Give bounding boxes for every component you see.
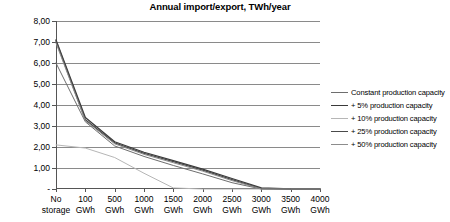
legend-item[interactable]: Constant production capacity — [331, 86, 449, 99]
legend-item-label: Constant production capacity — [351, 88, 445, 97]
y-axis-label: 1,00 — [10, 163, 50, 173]
y-axis-label: 2,00 — [10, 142, 50, 152]
plot-area: 8,007,006,005,004,003,002,001,00- No sto… — [56, 21, 320, 189]
legend-line-icon — [331, 140, 348, 149]
x-axis-tick — [173, 189, 174, 192]
legend-item-label: + 50% production capacity — [351, 140, 437, 149]
x-axis-tick — [144, 189, 145, 192]
series-line — [56, 43, 320, 189]
y-axis-label: 7,00 — [10, 37, 50, 47]
legend-line-icon — [331, 114, 348, 123]
x-axis-tick — [56, 189, 57, 192]
legend-line-icon — [331, 127, 348, 136]
legend-item[interactable]: + 5% production capacity — [331, 99, 449, 112]
x-axis-tick — [115, 189, 116, 192]
series-lines — [56, 21, 320, 189]
legend-item[interactable]: + 50% production capacity — [331, 138, 449, 151]
legend-item[interactable]: + 25% production capacity — [331, 125, 449, 138]
legend-item-label: + 25% production capacity — [351, 127, 437, 136]
y-axis-label: 5,00 — [10, 79, 50, 89]
y-axis-label: - — [10, 184, 50, 194]
legend-item-label: + 10% production capacity — [351, 114, 437, 123]
legend-item[interactable]: + 10% production capacity — [331, 112, 449, 125]
x-axis-label: 4000 GWh — [297, 194, 343, 215]
y-axis-label: 3,00 — [10, 121, 50, 131]
chart-container: Annual import/export, TWh/year 8,007,006… — [0, 0, 450, 222]
legend-line-icon — [331, 88, 348, 97]
y-axis-label: 8,00 — [10, 16, 50, 26]
y-axis-label: 6,00 — [10, 58, 50, 68]
chart-legend: Constant production capacity+ 5% product… — [331, 86, 449, 151]
chart-title: Annual import/export, TWh/year — [95, 1, 345, 13]
y-axis-label: 4,00 — [10, 100, 50, 110]
x-axis-tick — [85, 189, 86, 192]
legend-line-icon — [331, 101, 348, 110]
legend-item-label: + 5% production capacity — [351, 101, 432, 110]
